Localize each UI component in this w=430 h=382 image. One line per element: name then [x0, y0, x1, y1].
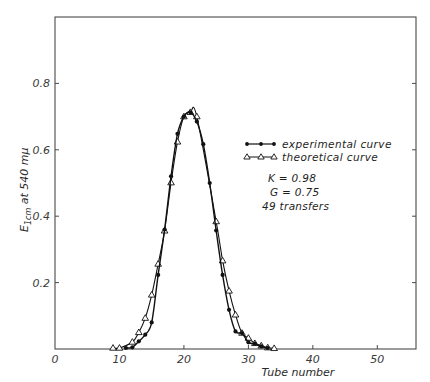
- data-point-filled-circle: [266, 346, 270, 350]
- data-point-filled-circle: [201, 142, 205, 146]
- data-point-filled-circle: [221, 273, 225, 277]
- data-point-filled-circle: [156, 273, 160, 277]
- data-point-filled-circle: [150, 320, 154, 324]
- y-tick-label: 0.6: [33, 144, 51, 157]
- data-point-filled-circle: [124, 346, 128, 350]
- x-tick-label: 0: [52, 353, 59, 366]
- data-point-filled-circle: [195, 119, 199, 123]
- legend-label-theoretical: theoretical curve: [282, 151, 378, 163]
- x-axis-title: Tube number: [262, 366, 336, 379]
- y-tick-label: 0.2: [33, 277, 51, 290]
- annotation-g: G = 0.75: [270, 186, 319, 198]
- x-tick-label: 50: [370, 353, 384, 366]
- data-point-filled-circle: [240, 331, 244, 335]
- data-point-filled-circle: [233, 329, 237, 333]
- data-point-filled-circle: [137, 339, 141, 343]
- data-point-filled-circle: [208, 181, 212, 185]
- legend-label-experimental: experimental curve: [282, 138, 392, 150]
- data-point-filled-circle: [169, 174, 173, 178]
- filled-circle-marker-icon: [245, 142, 249, 146]
- x-tick-label: 30: [241, 353, 255, 366]
- filled-circle-marker-icon: [272, 142, 276, 146]
- x-tick-label: 20: [177, 353, 191, 366]
- x-tick-label: 40: [306, 353, 320, 366]
- data-point-filled-circle: [253, 342, 257, 346]
- x-tick-label: 10: [112, 353, 126, 366]
- filled-circle-marker-icon: [259, 142, 263, 146]
- annotation-transfers: 49 transfers: [262, 200, 329, 212]
- y-axis-title-main: E: [18, 225, 31, 232]
- data-point-filled-circle: [162, 227, 166, 231]
- y-axis-title-rest: at 540 mμ: [18, 148, 31, 208]
- data-point-filled-circle: [188, 110, 192, 114]
- data-point-filled-circle: [227, 308, 231, 312]
- annotation-k: K = 0.98: [268, 172, 316, 184]
- data-point-filled-circle: [143, 333, 147, 337]
- y-tick-label: 0.8: [33, 77, 51, 90]
- data-point-filled-circle: [182, 115, 186, 119]
- y-tick-label: 0.4: [33, 210, 51, 223]
- data-point-filled-circle: [175, 132, 179, 136]
- data-point-filled-circle: [259, 344, 263, 348]
- y-axis-title-subscript: 1cm: [24, 208, 33, 225]
- data-point-filled-circle: [130, 345, 134, 349]
- chart-background: [0, 0, 430, 382]
- data-point-filled-circle: [246, 340, 250, 344]
- data-point-filled-circle: [214, 228, 218, 232]
- chart-figure: 01020304050 0.20.40.60.8 Tube number E1c…: [0, 0, 430, 382]
